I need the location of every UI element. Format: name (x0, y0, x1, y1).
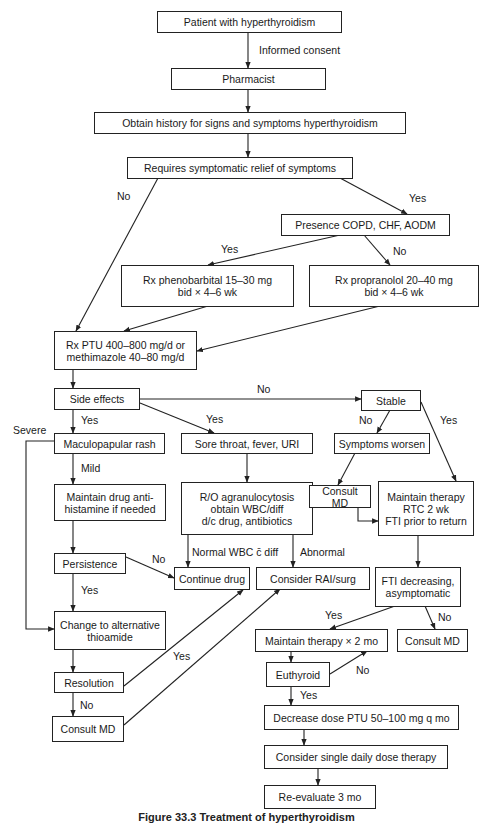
label-euthyroid-yes: Yes (300, 689, 317, 701)
label-mild: Mild (81, 462, 100, 474)
edge-stable-worsen-no (377, 410, 390, 433)
node-maintain-rtc: Maintain therapy RTC 2 wk FTI prior to r… (378, 481, 474, 536)
edge-consult-rai (124, 589, 280, 725)
node-resolution: Resolution (54, 672, 124, 693)
label-relief-yes: Yes (409, 192, 426, 204)
label-copd-yes: Yes (221, 243, 238, 255)
node-consult-md-3: Consult MD (52, 716, 124, 742)
label-normal-wbc: Normal WBC c̄ diff (192, 546, 278, 558)
label-persistence-yes: Yes (81, 584, 98, 596)
node-rai-surg: Consider RAI/surg (256, 567, 370, 590)
node-persistence: Persistence (54, 553, 126, 574)
node-agranulocytosis: R/O agranulocytosis obtain WBC/diff d/c … (181, 482, 313, 535)
edge-relief-copd-yes (340, 178, 407, 214)
node-sore-throat: Sore throat, fever, URI (181, 433, 313, 454)
node-change-thioamide: Change to alternative thioamide (54, 611, 166, 650)
node-fti-decreasing: FTI decreasing, asymptomatic (375, 567, 461, 607)
label-informed-consent: Informed consent (259, 44, 340, 56)
label-euthyroid-no: No (356, 664, 369, 676)
label-fti-no: No (438, 611, 451, 623)
edge-propranolol-ptu (197, 306, 380, 351)
label-relief-no: No (117, 190, 130, 202)
label-abnormal: Abnormal (300, 546, 345, 558)
node-continue-drug: Continue drug (174, 567, 250, 590)
node-symptoms-worsen: Symptoms worsen (334, 433, 430, 454)
label-persistence-no: No (152, 553, 165, 565)
node-rash: Maculopapular rash (54, 433, 165, 454)
edge-side-throat-yes (140, 403, 214, 433)
node-antihistamine: Maintain drug anti- histamine if needed (54, 484, 166, 521)
node-side-effects: Side effects (54, 388, 140, 410)
node-propranolol: Rx propranolol 20–40 mg bid × 4–6 wk (309, 265, 479, 307)
node-consult-md-2: Consult MD (397, 629, 468, 652)
label-resolution-yes: Yes (173, 650, 190, 662)
edge-consult-maintain (358, 507, 378, 521)
label-severe: Severe (13, 424, 46, 436)
edge-copd-propranolol (364, 235, 390, 265)
label-resolution-no: No (80, 699, 93, 711)
label-copd-no: No (393, 245, 406, 257)
node-pharmacist: Pharmacist (171, 68, 326, 90)
node-decrease-dose: Decrease dose PTU 50–100 mg q mo (264, 705, 459, 730)
node-reevaluate: Re-evaluate 3 mo (264, 785, 376, 809)
label-side-yes-rash: Yes (81, 414, 98, 426)
node-euthyroid: Euthyroid (266, 662, 330, 687)
node-ptu: Rx PTU 400–800 mg/d or methimazole 40–80… (54, 331, 197, 370)
node-copd: Presence COPD, CHF, AODM (281, 214, 450, 236)
node-patient: Patient with hyperthyroidism (157, 11, 342, 33)
edge-persistence-continue-no (126, 557, 174, 578)
figure-caption: Figure 33.3 Treatment of hyperthyroidism (0, 811, 493, 823)
node-maintain-2mo: Maintain therapy × 2 mo (255, 629, 388, 652)
label-stable-no: No (359, 414, 372, 426)
node-relief: Requires symptomatic relief of symptoms (127, 157, 353, 179)
label-side-no: No (257, 383, 270, 395)
edge-worsen-consult (338, 453, 355, 485)
label-fti-yes: Yes (325, 609, 342, 621)
edge-phenobarbital-ptu (124, 306, 208, 331)
node-phenobarbital: Rx phenobarbital 15–30 mg bid × 4–6 wk (121, 265, 294, 307)
node-consult-md-1: Consult MD (309, 485, 371, 508)
edge-fti-consult-no (425, 606, 435, 629)
edge-rash-change-severe (26, 441, 54, 629)
label-stable-yes: Yes (440, 414, 457, 426)
node-stable: Stable (361, 390, 421, 411)
node-single-dose: Consider single daily dose therapy (264, 745, 448, 769)
node-history: Obtain history for signs and symptoms hy… (94, 112, 406, 134)
label-side-yes-throat: Yes (206, 413, 223, 425)
